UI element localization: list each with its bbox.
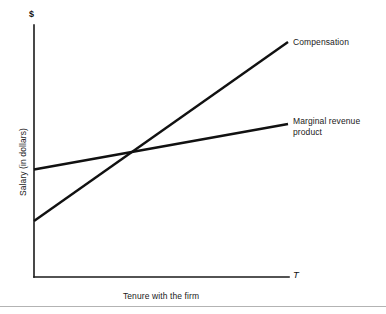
y-axis-unit-symbol: $ <box>29 9 34 20</box>
series-label-mrp-line1: Marginal revenue <box>293 116 360 126</box>
series-label-mrp-line2: product <box>293 127 322 137</box>
x-axis-title: Tenure with the firm <box>34 291 288 302</box>
series-label-compensation: Compensation <box>293 37 349 48</box>
x-axis-unit-symbol: T <box>293 270 299 281</box>
chart-figure: $ T Compensation Marginal revenueproduct… <box>0 0 386 314</box>
series-label-marginal-revenue-product: Marginal revenueproduct <box>293 116 385 137</box>
y-axis-title-wrapper: Salary (in dollars) <box>18 72 32 252</box>
y-axis-title: Salary (in dollars) <box>18 72 29 252</box>
